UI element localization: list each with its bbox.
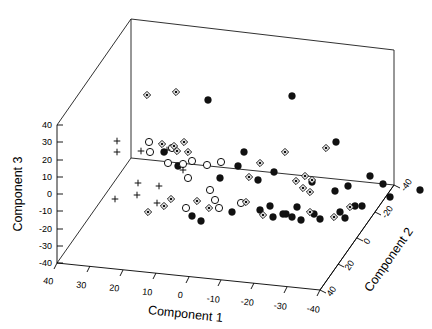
data-point-diamond-center [163, 205, 166, 208]
component2-tick-label: 40 [324, 284, 338, 298]
data-point-open-circle [184, 174, 191, 181]
data-point-filled-circle [342, 215, 349, 222]
component3-tick-label: -40 [39, 258, 52, 268]
component1-tick-label: 30 [76, 280, 87, 291]
component2-tick-label: -20 [379, 204, 395, 220]
data-point-diamond-center [176, 150, 179, 153]
data-point-filled-circle [332, 188, 339, 195]
component2-axis: -40 -20 0 20 40 Component 2 [320, 177, 416, 298]
data-point-filled-circle [229, 209, 236, 216]
data-point-filled-circle [217, 175, 224, 182]
component3-tick-label: -30 [39, 241, 52, 251]
data-point-open-circle [145, 138, 152, 145]
component2-axis-title: Component 2 [361, 225, 416, 295]
data-point-filled-circle [337, 209, 344, 216]
data-point-plus [112, 196, 119, 203]
data-point-filled-circle [289, 93, 296, 100]
data-point-filled-circle [267, 203, 274, 210]
component3-tick-label: -20 [39, 224, 52, 234]
data-point-diamond-center [245, 201, 248, 204]
component1-tick-label: -40 [306, 303, 320, 314]
data-point-filled-circle [359, 203, 366, 210]
data-point-diamond-center [248, 176, 251, 179]
component1-axis: 40 30 20 10 0 -10 -20 -30 -40 Component … [43, 263, 320, 325]
component3-ticks [57, 125, 63, 263]
data-point-diamond-center [304, 175, 307, 178]
box-edge-top-back [131, 19, 394, 50]
data-point-diamond-center [333, 216, 336, 219]
component1-tick-label: -30 [273, 300, 287, 311]
data-point-open-circle [217, 158, 224, 165]
data-point-filled-circle [235, 163, 242, 170]
data-point-open-circle [211, 196, 218, 203]
data-point-diamond-center [259, 162, 262, 165]
component1-axis-title: Component 1 [147, 303, 223, 325]
data-point-filled-circle [189, 213, 196, 220]
data-point-diamond-center [146, 94, 149, 97]
data-point-filled-circle [380, 181, 387, 188]
component1-ticks [54, 263, 320, 296]
data-point-filled-circle [367, 173, 374, 180]
data-point-open-circle [188, 157, 195, 164]
component2-tick-label: 0 [361, 236, 372, 246]
data-point-filled-circle [241, 149, 248, 156]
data-point-plus [114, 138, 121, 145]
data-point-filled-circle [289, 214, 296, 221]
component1-axis-line [57, 263, 320, 290]
data-point-filled-circle [294, 204, 301, 211]
component1-tick-label: 20 [109, 283, 120, 294]
component1-tick-label: 0 [177, 290, 183, 300]
series-filled_circle [161, 93, 424, 225]
data-point-open-circle [215, 204, 222, 211]
data-point-diamond-center [262, 214, 265, 217]
data-point-filled-circle [317, 216, 324, 223]
data-markers-layer [112, 88, 424, 224]
component3-axis: 40 30 20 10 0 -10 -20 -30 -40 Component … [11, 120, 63, 268]
data-point-diamond-center [173, 145, 176, 148]
data-point-diamond-center [187, 151, 190, 154]
data-point-open-circle [146, 148, 153, 155]
data-point-diamond-center [183, 141, 186, 144]
data-point-filled-circle [345, 183, 352, 190]
data-point-diamond-center [302, 187, 305, 190]
series-diamond [143, 88, 353, 220]
component1-tick-label: -20 [240, 296, 254, 307]
data-point-diamond-center [175, 91, 178, 94]
data-point-filled-circle [280, 211, 287, 218]
data-point-diamond-center [309, 191, 312, 194]
box-edge-left-wall-top [57, 19, 131, 125]
data-point-filled-circle [333, 139, 340, 146]
data-point-diamond-center [309, 211, 312, 214]
data-point-diamond-center [284, 151, 287, 154]
component3-axis-title: Component 3 [11, 156, 25, 231]
data-point-filled-circle [198, 218, 205, 225]
data-point-filled-circle [298, 217, 305, 224]
data-point-open-circle [203, 161, 210, 168]
scatter3d-figure: 40 30 20 10 0 -10 -20 -30 -40 Component … [0, 0, 432, 329]
component3-tick-label: 20 [42, 155, 52, 165]
data-point-diamond-center [349, 206, 352, 209]
component3-tick-label: 30 [42, 137, 52, 147]
component3-tick-label: 0 [47, 189, 52, 199]
data-point-diamond-center [295, 180, 298, 183]
component2-tick-label: -40 [398, 177, 414, 193]
component1-tick-label: 10 [142, 287, 153, 298]
data-point-filled-circle [255, 177, 262, 184]
plot-box-frame [57, 19, 394, 290]
component3-tick-label: 10 [42, 172, 52, 182]
plot-canvas: 40 30 20 10 0 -10 -20 -30 -40 Component … [0, 0, 432, 329]
data-point-diamond-center [161, 143, 164, 146]
data-point-filled-circle [205, 97, 212, 104]
data-point-diamond-center [170, 198, 173, 201]
component2-tick-label: 20 [342, 258, 356, 272]
data-point-plus [138, 148, 145, 155]
data-point-diamond-center [311, 179, 314, 182]
data-point-plus [114, 149, 121, 156]
data-point-diamond-center [208, 207, 211, 210]
component3-tick-label: 40 [42, 120, 52, 130]
data-point-plus [135, 180, 142, 187]
component3-tick-label: -10 [39, 206, 52, 216]
data-point-filled-circle [270, 214, 277, 221]
component2-ticks [320, 185, 400, 293]
data-point-diamond-center [147, 211, 150, 214]
